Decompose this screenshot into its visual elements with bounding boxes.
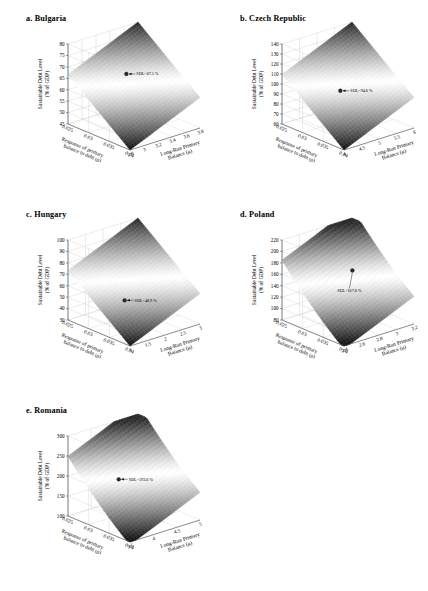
z-tick-label: 80 [59, 260, 65, 266]
y-tick-label: 2.5 [179, 329, 187, 337]
z-tick-label: 55 [59, 98, 65, 104]
y-tick-label: 4.5 [358, 144, 366, 152]
z-tick-label: 110 [271, 71, 279, 77]
z-tick-label: 80 [273, 101, 279, 107]
surface-plot-a: 45505560657075800.0250.030.0350.042.833.… [0, 0, 214, 196]
z-tick-label: 140 [271, 283, 279, 289]
y-tick-label: 4.5 [173, 527, 181, 535]
z-tick-label: 100 [271, 81, 279, 87]
z-tick-label: 60 [59, 87, 65, 93]
surface-plot-d: 801001201401601802002200.0250.030.0350.0… [214, 196, 428, 392]
sdl-marker-dot [338, 89, 342, 93]
y-tick-label: 3 [142, 146, 147, 153]
y-tick-label: 4 [152, 535, 157, 542]
y-tick-label: 1.5 [144, 340, 152, 348]
y-tick-label: 3.4 [168, 136, 176, 144]
z-tick-label: 70 [59, 271, 65, 277]
z-tick-label: 65 [59, 75, 65, 81]
z-axis-subtitle: (% of GDP) [258, 267, 265, 293]
z-tick-label: 180 [271, 260, 279, 266]
z-tick-label: 70 [273, 111, 279, 117]
surface-plot-c: 304050607080901000.0250.030.0350.0411.52… [0, 196, 214, 392]
sdl-value-label: SDL=167.8 % [337, 288, 362, 293]
panel-c: c. Hungary304050607080901000.0250.030.03… [0, 196, 214, 392]
z-tick-label: 150 [57, 493, 65, 499]
sdl-value-label: SDL=94.6 % [350, 88, 373, 93]
y-tick-label: 3 [395, 330, 400, 337]
y-tick-label: 5 [377, 139, 382, 146]
z-tick-label: 300 [57, 433, 65, 439]
z-tick-label: 160 [271, 271, 279, 277]
surface-plot-e: 1001502002503000.0250.030.0350.043.544.5… [0, 392, 214, 588]
figure-container: a. Bulgaria45505560657075800.0250.030.03… [0, 0, 428, 591]
z-axis-title: Sustainable Debt Level [37, 450, 43, 501]
z-tick-label: 70 [59, 64, 65, 70]
z-axis-title: Sustainable Debt Level [37, 254, 43, 305]
z-tick-label: 100 [271, 305, 279, 311]
y-tick-label: 3.2 [410, 324, 418, 332]
sdl-value-label: SDL=193.6 % [129, 477, 154, 482]
z-tick-label: 50 [59, 109, 65, 115]
z-axis-title: Sustainable Debt Level [37, 58, 43, 109]
z-tick-label: 250 [57, 453, 65, 459]
sdl-marker-dot [350, 269, 354, 273]
z-tick-label: 220 [271, 237, 279, 243]
z-tick-label: 60 [59, 283, 65, 289]
panel-d: d. Poland801001201401601802002200.0250.0… [214, 196, 428, 392]
y-tick-label: 5 [198, 520, 203, 527]
z-tick-label: 140 [271, 41, 279, 47]
z-tick-label: 120 [271, 61, 279, 67]
z-tick-label: 100 [57, 237, 65, 243]
sdl-marker-dot [123, 298, 127, 302]
panel-a: a. Bulgaria45505560657075800.0250.030.03… [0, 0, 214, 196]
panel-e: e. Romania1001502002503000.0250.030.0350… [0, 392, 214, 588]
z-tick-label: 80 [59, 41, 65, 47]
sdl-marker-dot [124, 72, 128, 76]
z-axis-subtitle: (% of GDP) [258, 71, 265, 97]
y-tick-label: 5.5 [393, 133, 401, 141]
z-tick-label: 90 [273, 91, 279, 97]
panel-b: b. Czech Republic60708090100110120130140… [214, 0, 428, 196]
z-tick-label: 90 [59, 248, 65, 254]
sdl-value-label: SDL=67.5 % [136, 71, 159, 76]
z-tick-label: 75 [59, 52, 65, 58]
y-tick-label: 3.8 [196, 128, 204, 136]
surface-plot-b: 607080901001101201301400.0250.030.0350.0… [214, 0, 428, 196]
z-axis-title: Sustainable Debt Level [251, 58, 257, 109]
z-axis-subtitle: (% of GDP) [44, 267, 51, 293]
y-tick-label: 3.2 [154, 141, 162, 149]
z-axis-subtitle: (% of GDP) [44, 463, 51, 489]
z-tick-label: 200 [271, 248, 279, 254]
y-tick-label: 2 [163, 335, 168, 342]
y-tick-label: 3 [198, 324, 203, 331]
z-axis-title: Sustainable Debt Level [251, 254, 257, 305]
y-tick-label: 3.6 [182, 132, 190, 140]
z-tick-label: 200 [57, 473, 65, 479]
sdl-value-label: SDL=48.9 % [135, 298, 158, 303]
y-tick-label: 2.6 [358, 340, 366, 348]
z-tick-label: 50 [59, 294, 65, 300]
z-tick-label: 130 [271, 51, 279, 57]
z-tick-label: 40 [59, 305, 65, 311]
sdl-marker-dot [117, 477, 121, 481]
z-axis-subtitle: (% of GDP) [44, 71, 51, 97]
z-tick-label: 120 [271, 294, 279, 300]
y-tick-label: 2.8 [375, 335, 383, 343]
y-tick-label: 6 [412, 128, 417, 135]
